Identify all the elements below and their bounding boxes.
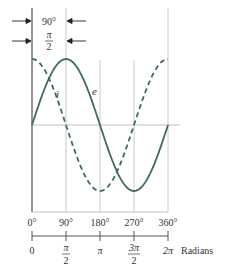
curve-label-e: e [92,85,97,97]
degree-tick-90: 90° [59,217,73,228]
degree-tick-0: 0° [28,217,37,228]
radian-tick-labels: 0 π 2 π 3π 2 2π [30,242,174,266]
radian-tick-3pi-2-den: 2 [132,255,137,266]
grid-lines [32,8,168,212]
curve-label-i: i [56,88,59,100]
degree-tick-360: 360° [159,217,178,228]
radian-tick-0: 0 [30,245,35,256]
radian-tick-2pi: 2π [163,245,174,256]
radian-tick-pi-2-den: 2 [64,255,69,266]
degree-tick-labels: 0° 90° 180° 270° 360° [28,217,178,228]
radian-tick-pi: π [97,245,103,256]
phase-radians-den: 2 [47,41,52,52]
phase-degrees-label: 90° [42,16,56,27]
radian-tick-3pi-2-num: 3π [128,242,140,253]
radians-unit-label: Radians [181,245,213,256]
phase-diagram: e i 90° π 2 0° 90° 180° 270° 360° 0 π 2 [0,0,232,277]
radian-axis [32,231,168,241]
radian-tick-pi-2-num: π [63,242,69,253]
degree-tick-270: 270° [125,217,144,228]
degree-tick-180: 180° [91,217,110,228]
phase-radians-num: π [46,29,52,40]
